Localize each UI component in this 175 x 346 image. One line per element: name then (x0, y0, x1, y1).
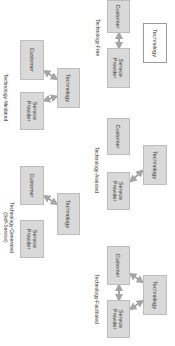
arrow-mediated-customer-technology (46, 72, 55, 78)
arrow-assisted-provider-technology (132, 172, 141, 180)
assisted-customer-box: Customer (107, 118, 130, 155)
generated-customer-box: Customer (20, 166, 44, 205)
mediated-customer-box: Customer (20, 40, 44, 80)
facilitated-customer-label: Customer (116, 254, 122, 278)
assisted-panel-title: Technology-Assisted (94, 140, 100, 200)
mediated-provider-label: Service Provider (26, 98, 38, 124)
assisted-provider-box: Service Provider (107, 172, 130, 210)
facilitated-technology-label: Technology (152, 281, 158, 309)
mediated-panel-title: Technology-Mediated (3, 60, 9, 135)
arrow-facilitated-provider-technology (132, 302, 141, 308)
assisted-customer-label: Customer (116, 125, 122, 149)
generated-provider-box: Service Provider (20, 220, 44, 258)
free-customer-label: Customer (116, 5, 122, 29)
free-customer-box: Customer (107, 0, 130, 33)
generated-panel-title-line2: (Self-Service) (3, 185, 9, 270)
arrow-mediated-provider-technology (46, 97, 55, 100)
facilitated-panel-title: Technology-Facilitated (94, 268, 100, 330)
mediated-provider-box: Service Provider (20, 92, 44, 130)
free-technology-box: Technology (143, 23, 167, 63)
generated-panel-title-line1: Technology-Generated (9, 185, 15, 270)
assisted-technology-label: Technology (152, 151, 158, 179)
facilitated-customer-box: Customer (107, 246, 130, 285)
facilitated-provider-box: Service Provider (107, 300, 130, 338)
mediated-technology-box: Technology (57, 68, 80, 108)
diagram-frame: Technology Customer Service Provider Tec… (0, 0, 175, 346)
generated-customer-label: Customer (29, 174, 35, 198)
mediated-technology-label: Technology (66, 74, 72, 102)
generated-panel-title: Technology-Generated (Self-Service) (3, 185, 15, 270)
facilitated-technology-box: Technology (143, 275, 167, 315)
diagram-canvas: Technology Customer Service Provider Tec… (0, 0, 175, 346)
free-provider-label: Service Provider (113, 55, 125, 81)
generated-technology-box: Technology (57, 193, 80, 235)
generated-provider-label: Service Provider (26, 226, 38, 252)
arrow-facilitated-customer-technology (132, 275, 141, 281)
mediated-customer-label: Customer (29, 48, 35, 72)
generated-technology-label: Technology (66, 200, 72, 228)
facilitated-provider-label: Service Provider (113, 306, 125, 332)
free-technology-label: Technology (152, 29, 158, 57)
arrow-generated-customer-technology (46, 197, 55, 203)
assisted-provider-label: Service Provider (113, 178, 125, 204)
free-panel-title: Technology-Free (95, 15, 101, 60)
free-provider-box: Service Provider (107, 48, 130, 88)
assisted-technology-box: Technology (143, 145, 167, 185)
